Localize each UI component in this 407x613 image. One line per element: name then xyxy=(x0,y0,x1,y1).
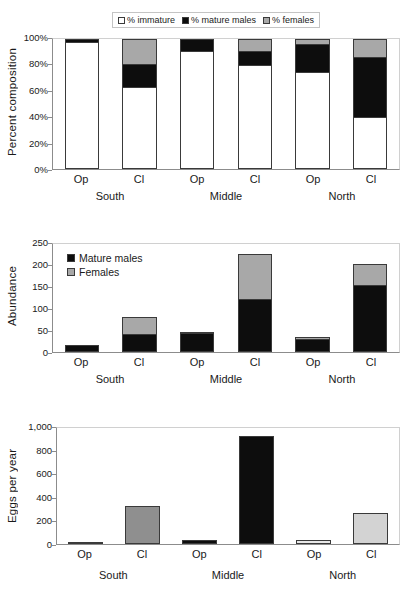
x-axis-group-label: North xyxy=(284,190,400,202)
y-axis-tick-label: 0% xyxy=(34,165,48,175)
bar-slot xyxy=(114,428,171,544)
bar-segment xyxy=(353,285,388,352)
y-axis-ticks-abundance: 050100150200250 xyxy=(20,243,48,353)
x-axis-category-label: Cl xyxy=(343,548,400,560)
x-axis-category-label: Cl xyxy=(342,173,400,185)
bar-segment xyxy=(295,44,330,71)
legend-label: % mature males xyxy=(191,15,256,25)
bar-slot xyxy=(226,39,284,169)
x-axis-groups-percent: SouthMiddleNorth xyxy=(52,190,400,202)
x-axis-categories-percent: OpClOpClOpCl xyxy=(52,173,400,185)
y-axis-tick-label: 1,000 xyxy=(28,422,52,432)
x-axis-group-label: Middle xyxy=(168,373,284,385)
y-axis-tick-mark xyxy=(48,170,52,171)
bar-segment xyxy=(122,317,157,334)
plot-area-eggs xyxy=(56,427,400,545)
bar-segment xyxy=(122,39,157,64)
stacked-bar xyxy=(180,39,215,169)
y-axis-label-abundance: Abundance xyxy=(6,240,20,352)
bar-slot xyxy=(342,428,399,544)
legend-label: Mature males xyxy=(79,252,143,264)
y-axis-tick-label: 200 xyxy=(32,260,48,270)
x-axis-category-label: Cl xyxy=(110,173,168,185)
stacked-bar xyxy=(353,39,388,169)
bar-slot xyxy=(168,244,226,352)
legend-abundance: Mature malesFemales xyxy=(67,252,143,280)
bar-segment xyxy=(180,39,215,51)
y-axis-tick-label: 80% xyxy=(29,60,48,70)
bar-segment xyxy=(238,65,273,169)
y-axis-ticks-percent: 0%20%40%60%80%100% xyxy=(20,38,48,170)
x-axis-group-label: North xyxy=(285,569,400,581)
y-axis-tick-mark xyxy=(52,545,56,546)
x-axis-category-label: Op xyxy=(168,173,226,185)
y-axis-tick-mark xyxy=(48,353,52,354)
bar-segment xyxy=(180,51,215,169)
chart-eggs-per-year: Eggs per year 02004006008001,000 OpClOpC… xyxy=(0,405,407,613)
bar-slot xyxy=(284,244,342,352)
stacked-bar xyxy=(238,39,273,169)
stacked-bar xyxy=(122,39,157,169)
legend-swatch-icon xyxy=(182,17,189,24)
bar-slot xyxy=(226,244,284,352)
bar xyxy=(296,540,330,544)
legend-label: Females xyxy=(79,266,119,278)
x-axis-category-label: Op xyxy=(168,356,226,368)
x-axis-category-label: Op xyxy=(56,548,113,560)
x-axis-category-label: Op xyxy=(285,548,342,560)
x-axis-category-label: Cl xyxy=(226,173,284,185)
legend-label: % immature xyxy=(127,15,175,25)
y-axis-tick-label: 20% xyxy=(29,139,48,149)
x-axis-category-label: Cl xyxy=(342,356,400,368)
y-axis-ticks-eggs: 02004006008001,000 xyxy=(20,427,52,545)
bar-slot xyxy=(171,428,228,544)
bar-slot xyxy=(111,39,169,169)
legend-swatch-icon xyxy=(263,17,270,24)
stacked-bar xyxy=(295,39,330,169)
plot-area-percent-composition xyxy=(52,38,400,170)
bar-slot xyxy=(341,244,399,352)
x-axis-group-label: Middle xyxy=(171,569,286,581)
stacked-bar xyxy=(295,337,330,352)
bar-segment xyxy=(65,42,100,169)
stacked-bar xyxy=(180,332,215,352)
legend-swatch-icon xyxy=(67,254,75,262)
bar-segment xyxy=(122,334,157,352)
bar-segment xyxy=(122,87,157,169)
legend-label: % females xyxy=(272,15,314,25)
bar-segment xyxy=(295,72,330,170)
x-axis-category-label: Op xyxy=(52,173,110,185)
y-axis-tick-label: 200 xyxy=(36,517,52,527)
y-axis-tick-label: 250 xyxy=(32,238,48,248)
y-axis-tick-label: 40% xyxy=(29,112,48,122)
bar xyxy=(182,540,216,544)
bar-slot xyxy=(168,39,226,169)
legend-item: Mature males xyxy=(67,252,143,264)
bar-segment xyxy=(295,339,330,352)
bar-slot xyxy=(284,39,342,169)
bar-segment xyxy=(238,39,273,51)
y-axis-tick-label: 150 xyxy=(32,282,48,292)
y-axis-tick-label: 800 xyxy=(36,446,52,456)
x-axis-categories-eggs: OpClOpClOpCl xyxy=(56,548,400,560)
bar-series-eggs xyxy=(57,428,399,544)
bar-segment xyxy=(180,333,215,352)
y-axis-tick-label: 600 xyxy=(36,469,52,479)
x-axis-category-label: Cl xyxy=(226,356,284,368)
bar xyxy=(68,542,102,544)
bar-segment xyxy=(353,57,388,117)
x-axis-group-label: South xyxy=(52,190,168,202)
y-axis-tick-label: 60% xyxy=(29,86,48,96)
x-axis-category-label: Cl xyxy=(110,356,168,368)
bar xyxy=(353,513,387,544)
stacked-bar xyxy=(122,317,157,352)
y-axis-tick-label: 100 xyxy=(32,304,48,314)
y-axis-label-eggs: Eggs per year xyxy=(6,427,20,545)
bar xyxy=(239,436,273,544)
chart-percent-composition: % immature% mature males% females Percen… xyxy=(0,0,407,215)
bar-segment xyxy=(238,51,273,65)
stacked-bar xyxy=(353,264,388,352)
bar-segment xyxy=(353,39,388,57)
bar-slot xyxy=(57,428,114,544)
stacked-bar xyxy=(65,39,100,169)
